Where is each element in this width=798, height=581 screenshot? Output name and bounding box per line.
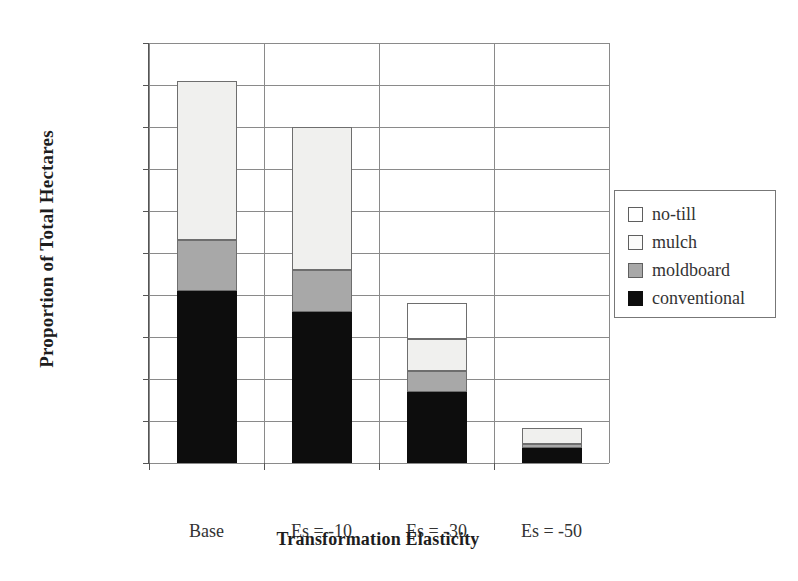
legend-swatch-conventional-icon <box>628 291 643 306</box>
bar-segment-moldboard[interactable] <box>407 371 467 392</box>
bar-segment-conventional[interactable] <box>177 291 237 463</box>
bar-segment-mulch[interactable] <box>177 81 237 241</box>
x-gridline <box>149 43 150 463</box>
legend-item-conventional[interactable]: conventional <box>628 284 775 312</box>
legend-item-mulch[interactable]: mulch <box>628 228 775 256</box>
legend-label-mulch: mulch <box>652 232 697 253</box>
y-axis-title: Proportion of Total Hectares <box>36 84 58 414</box>
bar-segment-moldboard[interactable] <box>292 270 352 312</box>
stacked-bar-chart-figure: Proportion of Total Hectares 0%10%20%30%… <box>0 0 798 581</box>
bar-segment-mulch[interactable] <box>522 428 582 444</box>
bar-group[interactable] <box>407 43 467 463</box>
bar-segment-conventional[interactable] <box>292 312 352 463</box>
bar-segment-mulch[interactable] <box>407 339 467 371</box>
legend-swatch-no-till-icon <box>628 207 643 222</box>
legend-swatch-mulch-icon <box>628 235 643 250</box>
legend-label-no-till: no-till <box>652 204 696 225</box>
bar-group[interactable] <box>292 43 352 463</box>
legend-label-conventional: conventional <box>652 288 745 309</box>
x-gridline <box>379 43 380 463</box>
x-tick-mark <box>264 463 265 470</box>
bar-group[interactable] <box>177 43 237 463</box>
bar-segment-notill[interactable] <box>407 303 467 339</box>
bar-segment-conventional[interactable] <box>522 448 582 463</box>
x-gridline <box>494 43 495 463</box>
legend-label-moldboard: moldboard <box>652 260 730 281</box>
x-tick-mark <box>494 463 495 470</box>
x-tick-mark <box>379 463 380 470</box>
bar-segment-moldboard[interactable] <box>522 444 582 448</box>
x-tick-mark <box>149 463 150 470</box>
x-gridline <box>609 43 610 463</box>
bar-group[interactable] <box>522 43 582 463</box>
x-axis-title: Transformation Elasticity <box>148 529 608 550</box>
plot-area: 0%10%20%30%40%50%60%70%80%90%100%BaseEs … <box>148 43 609 464</box>
bar-segment-conventional[interactable] <box>407 392 467 463</box>
chart-legend: no-till mulch moldboard conventional <box>614 190 776 318</box>
legend-item-no-till[interactable]: no-till <box>628 200 775 228</box>
legend-item-moldboard[interactable]: moldboard <box>628 256 775 284</box>
x-gridline <box>264 43 265 463</box>
bar-segment-moldboard[interactable] <box>177 240 237 290</box>
legend-swatch-moldboard-icon <box>628 263 643 278</box>
bar-segment-mulch[interactable] <box>292 127 352 270</box>
